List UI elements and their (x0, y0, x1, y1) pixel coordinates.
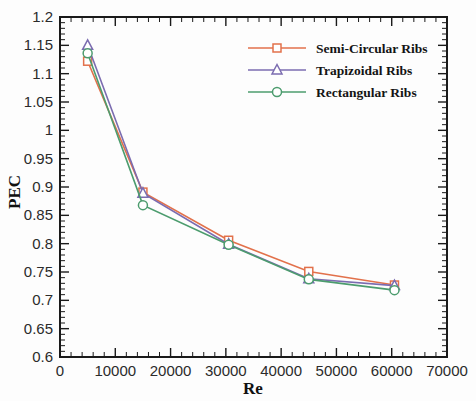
data-point-marker (304, 275, 313, 284)
x-axis-title: Re (243, 379, 263, 398)
y-tick-label: 0.65 (24, 320, 53, 337)
legend-label: Rectangular Ribs (316, 85, 417, 100)
pec-vs-re-line-chart: 0.60.650.70.750.80.850.90.9511.051.11.15… (0, 0, 476, 401)
legend-marker (273, 88, 282, 97)
data-point-marker (390, 286, 399, 295)
y-tick-label: 1.15 (24, 36, 53, 53)
legend-marker (273, 44, 281, 52)
chart-figure: 0.60.650.70.750.80.850.90.9511.051.11.15… (0, 0, 476, 401)
y-tick-label: 1.2 (32, 8, 53, 25)
x-tick-label: 60000 (371, 362, 413, 379)
y-tick-label: 1.1 (32, 65, 53, 82)
legend-item: Trapizoidal Ribs (248, 63, 412, 78)
y-tick-label: 0.6 (32, 348, 53, 365)
data-point-marker (138, 201, 147, 210)
data-point-marker (83, 49, 92, 58)
x-axis-tick-labels: 010000200003000040000500006000070000 (56, 362, 468, 379)
y-axis-title: PEC (5, 175, 24, 209)
legend-label: Trapizoidal Ribs (316, 63, 412, 78)
data-point-marker (224, 240, 233, 249)
y-tick-label: 0.8 (32, 235, 53, 252)
y-tick-label: 1.05 (24, 93, 53, 110)
data-series-group (83, 40, 400, 295)
x-tick-label: 20000 (150, 362, 192, 379)
y-tick-label: 1 (45, 121, 53, 138)
y-tick-label: 0.75 (24, 263, 53, 280)
x-tick-label: 0 (56, 362, 64, 379)
y-tick-label: 0.85 (24, 206, 53, 223)
data-point-marker (83, 40, 93, 50)
y-tick-label: 0.9 (32, 178, 53, 195)
legend-item: Semi-Circular Ribs (248, 41, 428, 56)
x-tick-label: 70000 (426, 362, 468, 379)
y-tick-label: 0.7 (32, 291, 53, 308)
y-tick-label: 0.95 (24, 150, 53, 167)
chart-legend: Semi-Circular RibsTrapizoidal RibsRectan… (248, 41, 428, 100)
legend-item: Rectangular Ribs (248, 85, 417, 100)
x-tick-label: 40000 (260, 362, 302, 379)
legend-label: Semi-Circular Ribs (316, 41, 428, 56)
x-tick-label: 50000 (316, 362, 358, 379)
x-tick-label: 30000 (205, 362, 247, 379)
y-axis-tick-labels: 0.60.650.70.750.80.850.90.9511.051.11.15… (24, 8, 53, 365)
x-tick-label: 10000 (94, 362, 136, 379)
